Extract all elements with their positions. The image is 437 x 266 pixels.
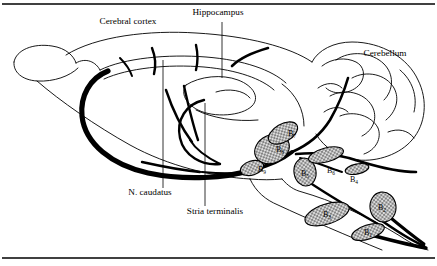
sagittal-brain-svg: Cerebral cortex Hippocampus Cerebellum N… (0, 0, 437, 266)
label-cerebral-cortex: Cerebral cortex (100, 16, 157, 26)
brain-diagram-figure: Cerebral cortex Hippocampus Cerebellum N… (0, 0, 437, 266)
label-n-caudatus: N. caudatus (128, 187, 172, 197)
label-stria-terminalis: Stria terminalis (187, 206, 244, 216)
label-hippocampus: Hippocampus (192, 7, 243, 17)
label-cerebellum: Cerebellum (364, 48, 407, 58)
